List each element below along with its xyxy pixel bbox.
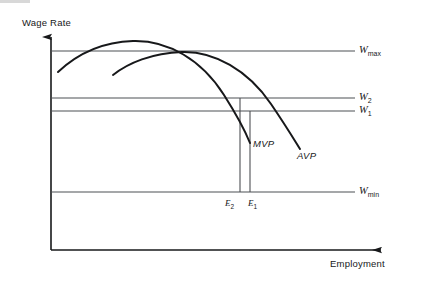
curve-label-avp: AVP bbox=[297, 151, 316, 161]
figure-svg bbox=[0, 0, 421, 287]
wage-label-wmin-text: W bbox=[359, 185, 368, 196]
wage-label-wmax-text: W bbox=[359, 44, 368, 55]
wage-label-wmin-sub: min bbox=[368, 191, 379, 198]
x-axis-title: Employment bbox=[330, 259, 385, 269]
employment-label-e1-sub: 1 bbox=[254, 203, 258, 210]
wage-label-wmax-sub: max bbox=[368, 50, 381, 57]
wage-label-w2-sub: 2 bbox=[368, 97, 372, 104]
employment-label-e1: E1 bbox=[248, 199, 257, 210]
wage-label-w1-sub: 1 bbox=[368, 110, 372, 117]
wage-label-wmin: Wmin bbox=[359, 186, 379, 198]
wage-label-w1: W1 bbox=[359, 105, 372, 117]
curve-label-mvp: MVP bbox=[253, 139, 275, 149]
wage-label-w1-text: W bbox=[359, 104, 368, 115]
employment-label-e2: E2 bbox=[225, 199, 234, 210]
wage-label-w2: W2 bbox=[359, 92, 372, 104]
wage-label-w2-text: W bbox=[359, 91, 368, 102]
employment-label-e2-sub: 2 bbox=[231, 203, 235, 210]
wage-label-wmax: Wmax bbox=[359, 45, 381, 57]
y-axis-title: Wage Rate bbox=[22, 18, 71, 28]
diagram-canvas: Wage Rate Employment Wmax W2 W1 Wmin E2 … bbox=[0, 0, 421, 287]
curve-avp bbox=[113, 52, 300, 149]
